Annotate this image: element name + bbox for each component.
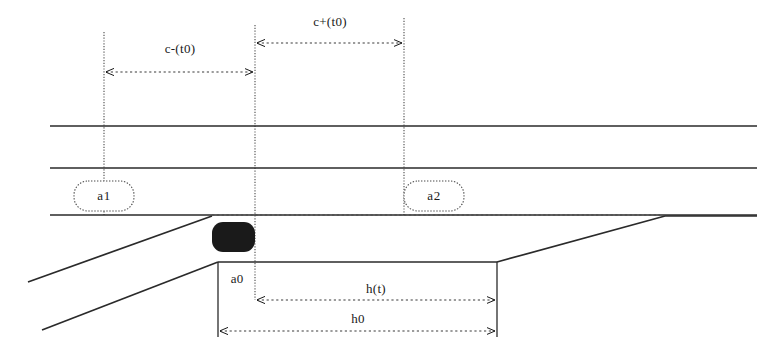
dimension-label-h0: h0 [351, 311, 365, 326]
left-diagonal-lines [28, 216, 218, 330]
moving-object-marker[interactable] [212, 222, 255, 252]
lower-profile [218, 216, 757, 262]
dimension-c-plus: c+(t0) [257, 14, 402, 43]
dimension-label-h-of-t: h(t) [366, 281, 386, 296]
diagram-svg: c-(t0) c+(t0) a1 a2 [0, 0, 784, 357]
node-a2-label: a2 [427, 188, 440, 203]
diagonal-line-lower [42, 262, 218, 330]
moving-object-shape [212, 222, 255, 252]
node-a1[interactable]: a1 [74, 181, 134, 211]
profile-ramp-line [497, 216, 665, 262]
diagonal-line-upper [28, 216, 212, 282]
dimension-h0: h0 [220, 311, 495, 331]
node-a1-label: a1 [97, 188, 110, 203]
dimension-label-a0: a0 [231, 271, 243, 286]
dimension-h-of-t: h(t) [257, 281, 495, 300]
vertical-guides [104, 18, 404, 300]
dimension-c-minus: c-(t0) [106, 41, 253, 72]
dimension-a0: a0 [231, 271, 243, 286]
dimension-label-c-plus: c+(t0) [313, 14, 347, 29]
diagram-canvas: c-(t0) c+(t0) a1 a2 [0, 0, 784, 357]
dimension-label-c-minus: c-(t0) [165, 41, 196, 56]
node-a2[interactable]: a2 [404, 181, 464, 211]
